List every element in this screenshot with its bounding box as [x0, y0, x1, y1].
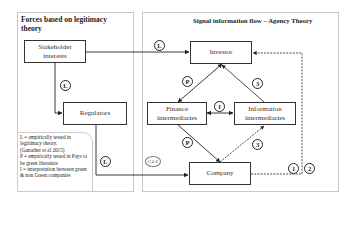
regulators-node: Regulators — [63, 102, 127, 125]
badge-c4-6: C4-6 — [145, 156, 161, 167]
legend-line: I = interpretation between green & non G… — [20, 166, 90, 179]
badge-information-investor: 3 — [252, 78, 263, 89]
badge-stakeholder-regulators: L — [60, 80, 71, 91]
investor-node: Investor — [190, 41, 252, 64]
badge-feedback-2: 2 — [304, 163, 315, 174]
badge-stakeholder-investor: L — [154, 40, 165, 51]
badge-investor-finance: P — [182, 76, 193, 87]
company-node: Company — [189, 162, 251, 185]
badge-company-information: 3 — [252, 139, 263, 150]
badge-finance-company: P — [182, 137, 193, 148]
badge-finance-information: I — [214, 101, 225, 112]
legend-line: P = empirically tested in Pays to be gre… — [20, 153, 90, 166]
legend-box: L = empirically tested in legitimacy the… — [17, 132, 93, 192]
legend-line: L = empirically tested in legitimacy the… — [20, 134, 90, 147]
stakeholder-interests-node: Stakeholder interests — [24, 40, 86, 63]
information-intermediaries-node: Information intermediaries — [234, 102, 296, 125]
finance-intermediaries-node: Finance intermediaries — [147, 102, 207, 125]
badge-feedback-1: 1 — [288, 163, 299, 174]
badge-regulators-company: L — [100, 156, 111, 167]
